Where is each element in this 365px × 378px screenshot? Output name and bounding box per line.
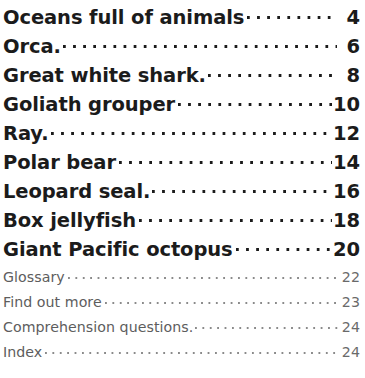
toc-entry-page-number: 22 xyxy=(340,269,360,285)
toc-entry-polar-bear[interactable]: Polar bear 14 xyxy=(3,149,360,178)
dot-leader xyxy=(152,178,332,198)
toc-entry-title: Polar bear xyxy=(3,151,119,174)
toc-entry-page-number: 8 xyxy=(337,64,360,87)
toc-entry-box-jellyfish[interactable]: Box jellyfish 18 xyxy=(3,207,360,236)
toc-entry-great-white-shark[interactable]: Great white shark. 8 xyxy=(3,62,360,91)
toc-entry-index[interactable]: Index 24 xyxy=(3,343,360,368)
dot-leader xyxy=(208,62,337,82)
toc-entry-glossary[interactable]: Glossary 22 xyxy=(3,268,360,293)
toc-entry-title: Great white shark. xyxy=(3,64,209,87)
dot-leader xyxy=(195,318,340,332)
toc-entry-page-number: 4 xyxy=(337,6,360,29)
toc-entry-title: Comprehension questions. xyxy=(3,319,196,335)
toc-entry-page-number: 12 xyxy=(332,122,360,145)
toc-entry-title: Leopard seal. xyxy=(3,180,153,203)
toc-entry-title: Orca. xyxy=(3,35,64,58)
toc-entry-goliath-grouper[interactable]: Goliath grouper 10 xyxy=(3,91,360,120)
toc-entry-page-number: 24 xyxy=(340,344,360,360)
toc-entry-title: Giant Pacific octopus xyxy=(3,238,236,261)
dot-leader xyxy=(119,149,332,169)
dot-leader xyxy=(105,293,340,307)
toc-entry-oceans-full-of-animals[interactable]: Oceans full of animals 4 xyxy=(3,4,360,33)
toc-entry-ray[interactable]: Ray. 12 xyxy=(3,120,360,149)
toc-entry-page-number: 24 xyxy=(340,319,360,335)
dot-leader xyxy=(139,207,332,227)
toc-entry-page-number: 18 xyxy=(332,209,360,232)
toc-entry-page-number: 6 xyxy=(337,35,360,58)
toc-entry-find-out-more[interactable]: Find out more 23 xyxy=(3,293,360,318)
dot-leader xyxy=(45,343,340,357)
toc-entry-page-number: 10 xyxy=(332,93,360,116)
dot-leader xyxy=(247,4,337,24)
toc-entry-title: Box jellyfish xyxy=(3,209,139,232)
dot-leader xyxy=(51,120,333,140)
toc-entry-page-number: 14 xyxy=(332,151,360,174)
table-of-contents: Oceans full of animals 4 Orca. 6 Great w… xyxy=(0,0,365,378)
dot-leader xyxy=(63,33,337,53)
toc-entry-page-number: 23 xyxy=(340,294,360,310)
dot-leader xyxy=(236,236,333,256)
toc-entry-title: Glossary xyxy=(3,269,68,285)
toc-entry-comprehension-questions[interactable]: Comprehension questions. 24 xyxy=(3,318,360,343)
toc-entry-title: Find out more xyxy=(3,294,105,310)
dot-leader xyxy=(68,268,340,282)
dot-leader xyxy=(178,91,332,111)
toc-entry-giant-pacific-octopus[interactable]: Giant Pacific octopus 20 xyxy=(3,236,360,265)
toc-entry-orca[interactable]: Orca. 6 xyxy=(3,33,360,62)
toc-entry-leopard-seal[interactable]: Leopard seal. 16 xyxy=(3,178,360,207)
toc-entry-title: Goliath grouper xyxy=(3,93,178,116)
toc-entry-page-number: 16 xyxy=(332,180,360,203)
toc-entry-page-number: 20 xyxy=(332,238,360,261)
toc-entry-title: Oceans full of animals xyxy=(3,6,247,29)
toc-entry-title: Index xyxy=(3,344,45,360)
toc-entry-title: Ray. xyxy=(3,122,52,145)
